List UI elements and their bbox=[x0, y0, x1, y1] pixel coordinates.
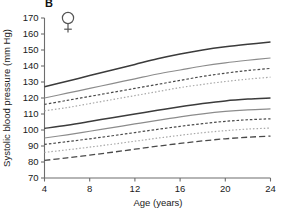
x-tick-label: 16 bbox=[175, 183, 186, 194]
curve-lower-band-dotted bbox=[45, 128, 271, 152]
x-tick-label: 8 bbox=[87, 183, 92, 194]
y-tick-label: 100 bbox=[23, 124, 39, 135]
y-tick-label: 110 bbox=[23, 108, 38, 119]
y-tick-label: 170 bbox=[23, 12, 39, 23]
chart-svg: B 708090100110120130140150160170 4812162… bbox=[0, 0, 282, 214]
y-tick-label: 80 bbox=[28, 156, 39, 167]
x-axis-title: Age (years) bbox=[133, 197, 182, 208]
axes bbox=[45, 18, 271, 178]
curve-lower-band-solid-thick bbox=[45, 98, 271, 128]
curve-lowest-band-longdash bbox=[45, 136, 271, 160]
y-tick-label: 90 bbox=[28, 140, 39, 151]
y-tick-label: 70 bbox=[28, 172, 39, 183]
y-tick-label: 160 bbox=[23, 28, 39, 39]
x-tick-label: 20 bbox=[220, 183, 231, 194]
x-tick-label: 12 bbox=[130, 183, 141, 194]
y-tick-label: 140 bbox=[23, 60, 39, 71]
panel-label: B bbox=[45, 0, 53, 9]
venus-female-symbol-icon bbox=[62, 12, 73, 32]
y-tick-label: 130 bbox=[23, 76, 39, 87]
y-axis-title: Systolic blood pressure (mm Hg) bbox=[1, 29, 12, 167]
y-tick-label: 150 bbox=[23, 44, 39, 55]
chart-container: B 708090100110120130140150160170 4812162… bbox=[0, 0, 282, 214]
y-axis-ticks: 708090100110120130140150160170 bbox=[23, 12, 45, 183]
x-tick-label: 24 bbox=[265, 183, 276, 194]
x-tick-label: 4 bbox=[42, 183, 47, 194]
y-tick-label: 120 bbox=[23, 92, 39, 103]
x-axis-ticks: 4812162024 bbox=[42, 178, 276, 194]
curve-upper-band-dotted bbox=[45, 77, 271, 111]
chart-curves bbox=[45, 42, 271, 160]
curve-upper-band-solid-thick bbox=[45, 42, 271, 87]
